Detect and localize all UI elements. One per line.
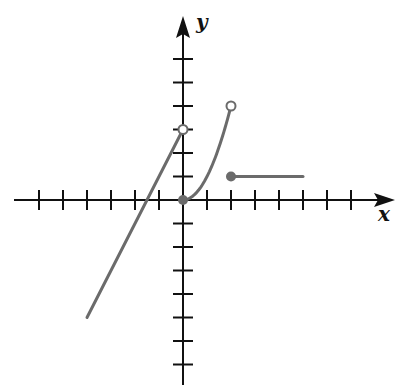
open-endpoint-icon (179, 125, 188, 134)
curve-linear-piece (87, 130, 183, 318)
closed-endpoint-icon (226, 172, 236, 182)
axes (14, 16, 395, 385)
piecewise-function-graph (0, 0, 407, 385)
y-axis-label: y (196, 10, 208, 34)
open-endpoint-icon (227, 102, 236, 111)
x-axis-label: x (378, 202, 390, 226)
function-curves (87, 102, 303, 318)
closed-endpoint-icon (178, 195, 188, 205)
